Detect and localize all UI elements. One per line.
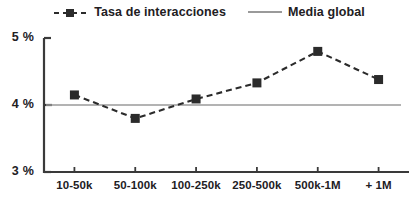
x-axis-tick-label: 250-500k	[227, 180, 288, 192]
x-axis-tick-label: 100-250k	[166, 180, 227, 192]
x-axis-tick-label: 500k-1M	[287, 180, 348, 192]
x-axis-tick-label: + 1M	[348, 180, 409, 192]
y-axis-tick-label: 3 %	[0, 165, 34, 178]
y-axis-tick-label: 5 %	[0, 31, 34, 44]
x-axis-tick-label: 50-100k	[105, 180, 166, 192]
data-point-marker	[131, 114, 140, 123]
x-axis-tick-label: 10-50k	[44, 180, 105, 192]
plot-svg	[0, 0, 419, 199]
data-point-marker	[374, 75, 383, 84]
plot-area	[0, 0, 419, 199]
data-point-marker	[313, 47, 322, 56]
y-axis-tick-label: 4 %	[0, 98, 34, 111]
data-point-marker	[252, 78, 261, 87]
data-point-marker	[192, 94, 201, 103]
chart-container: Tasa de interacciones Media global 3 %4 …	[0, 0, 419, 199]
data-point-marker	[70, 90, 79, 99]
